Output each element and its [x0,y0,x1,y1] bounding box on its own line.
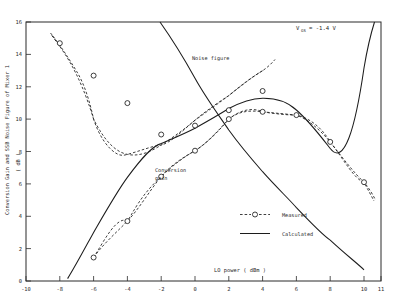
y-tick-label: 0 [19,278,22,284]
x-tick-label: -6 [90,286,97,292]
data-point [193,123,198,128]
chart-canvas: 0 2 4 6 8 10 12 14 16 -10 -8 [0,0,403,304]
legend: Measured Calculated [240,212,313,237]
legend-item-measured: Measured [240,212,307,218]
legend-label-calculated: Calculated [282,231,313,237]
x-tick-label: -4 [124,286,131,292]
y-axis-ticks [26,22,31,281]
data-point [125,219,130,224]
x-tick-label: 8 [329,286,332,292]
series-conversion-gain-measured-markers [91,109,366,260]
bias-v-symbol: V [296,25,300,31]
data-point [226,108,231,113]
data-point [125,101,130,106]
conversion-gain-curve-label-line2: gain [155,175,168,182]
data-point [260,109,265,114]
y-tick-label: 2 [19,246,22,252]
y-tick-label: 14 [16,51,23,57]
series-noise-figure-measured-markers [57,41,265,137]
x-tick-label: -2 [158,286,165,292]
data-point [328,139,333,144]
x-axis-title: LO power ( dBm ) [214,267,266,274]
bias-condition-annotation: V GS = -1.4 V [296,25,337,33]
x-tick-label: 6 [295,286,298,292]
y-axis-units: ( dB ) [15,153,21,172]
y-tick-label: 6 [19,181,22,187]
x-tick-label: -8 [57,286,64,292]
chart-figure: 0 2 4 6 8 10 12 14 16 -10 -8 [0,0,403,304]
x-axis-ticks [26,276,381,281]
series-conversion-gain-measured-path [94,111,376,257]
x-tick-label: 0 [193,286,196,292]
data-point [91,255,96,260]
noise-figure-curve-label: Noise figure [192,55,229,62]
legend-marker-circle [253,212,258,217]
data-point [91,73,96,78]
y-axis-tick-labels: 0 2 4 6 8 10 12 14 16 [16,19,23,284]
data-point [260,89,265,94]
data-point [294,113,299,118]
data-point [57,41,62,46]
y-tick-label: 4 [19,213,22,219]
series-noise-figure-measured [52,36,263,156]
legend-item-calculated: Calculated [240,231,313,237]
y-tick-label: 12 [16,84,23,90]
data-point [362,180,367,185]
data-point [159,132,164,137]
x-tick-label: 11 [378,286,385,292]
x-tick-label: 2 [227,286,230,292]
conversion-gain-curve-label-line1: Conversion [155,167,186,173]
bias-gs-subscript: GS [301,28,306,33]
x-tick-label: 10 [361,286,368,292]
data-point [193,148,198,153]
series-conversion-gain-measured [94,110,374,258]
x-axis-tick-labels: -10 -8 -6 -4 -2 0 2 4 6 8 10 11 [21,286,384,292]
legend-label-measured: Measured [282,212,307,218]
x-tick-label: -10 [21,286,31,292]
y-tick-label: 10 [16,116,23,122]
y-tick-label: 16 [16,19,23,25]
x-tick-label: 4 [261,286,264,292]
y-axis-title: Conversion Gain and SSB Noise Figure of … [4,65,11,215]
bias-value: = -1.4 V [309,25,337,31]
data-point [226,117,231,122]
